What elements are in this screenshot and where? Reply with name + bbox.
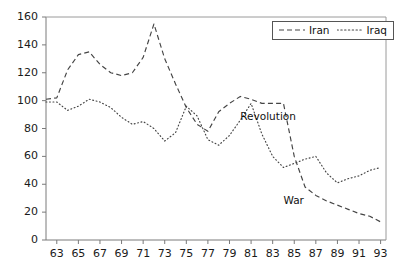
y-tick-label: 20: [0, 205, 38, 218]
chart-figure: 020406080100120140160 636567697173757779…: [0, 0, 414, 278]
legend-item-iran: Iran: [279, 24, 330, 36]
x-tick-label: 93: [367, 247, 395, 260]
annotation-war: War: [283, 194, 303, 206]
series-line-iran: [46, 24, 381, 222]
annotation-revolution: Revolution: [240, 110, 296, 122]
axis-ticks: [42, 17, 381, 244]
plot-frame: [46, 17, 386, 240]
legend-label-iraq: Iraq: [367, 24, 388, 36]
y-tick-label: 100: [0, 94, 38, 107]
y-tick-label: 140: [0, 38, 38, 51]
legend-swatch-dotted-icon: [337, 26, 363, 34]
chart-legend: Iran Iraq: [272, 21, 394, 40]
legend-swatch-dashed-icon: [279, 26, 305, 34]
y-tick-label: 160: [0, 10, 38, 23]
legend-item-iraq: Iraq: [337, 24, 388, 36]
y-tick-label: 0: [0, 233, 38, 246]
y-tick-label: 40: [0, 177, 38, 190]
legend-label-iran: Iran: [309, 24, 330, 36]
y-tick-label: 60: [0, 149, 38, 162]
chart-canvas: [0, 0, 414, 278]
y-tick-label: 80: [0, 122, 38, 135]
series-lines: [46, 24, 381, 222]
series-line-iraq: [46, 99, 381, 183]
y-tick-label: 120: [0, 66, 38, 79]
